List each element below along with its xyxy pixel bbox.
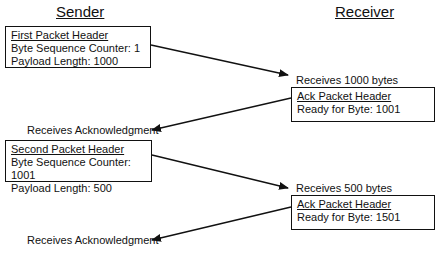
second-packet-header-box: Second Packet Header Byte Sequence Count… <box>5 140 152 182</box>
byte-sequence-counter: Byte Sequence Counter: 1001 <box>11 156 146 182</box>
ack-header-title: Ack Packet Header <box>297 198 429 211</box>
payload-length: Payload Length: 1000 <box>11 55 145 68</box>
payload-length: Payload Length: 500 <box>11 182 146 195</box>
ready-for-byte: Ready for Byte: 1501 <box>297 211 429 224</box>
first-packet-header-box: First Packet Header Byte Sequence Counte… <box>5 26 151 68</box>
receives-acknowledgment-label-2: Receives Acknowledgment <box>27 234 158 247</box>
receives-bytes-label-1: Receives 1000 bytes <box>296 74 398 87</box>
receiver-title: Receiver <box>335 3 394 20</box>
arrow-packet2-to-receiver <box>152 155 288 188</box>
ack-packet-header-box-1: Ack Packet Header Ready for Byte: 1001 <box>291 87 435 122</box>
arrow-packet1-to-receiver <box>151 45 288 75</box>
ack-header-title: Ack Packet Header <box>297 90 429 103</box>
arrow-ack1-to-sender <box>152 98 291 130</box>
ack-packet-header-box-2: Ack Packet Header Ready for Byte: 1501 <box>291 195 435 230</box>
arrow-ack2-to-sender <box>152 207 291 240</box>
byte-sequence-counter: Byte Sequence Counter: 1 <box>11 42 145 55</box>
sender-title: Sender <box>56 3 104 20</box>
ready-for-byte: Ready for Byte: 1001 <box>297 103 429 116</box>
receives-acknowledgment-label-1: Receives Acknowledgment <box>27 124 158 137</box>
packet-header-title: First Packet Header <box>11 29 145 42</box>
receives-bytes-label-2: Receives 500 bytes <box>296 182 392 195</box>
packet-header-title: Second Packet Header <box>11 143 146 156</box>
